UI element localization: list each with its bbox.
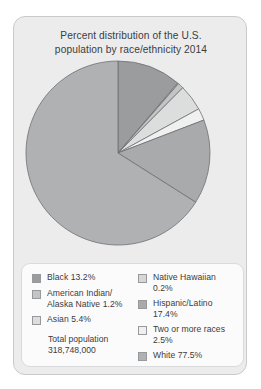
- legend-swatch-icon: [138, 352, 147, 361]
- legend-column-left: Black 13.2%American Indian/Alaska Native…: [32, 272, 140, 355]
- legend-swatch-icon: [138, 300, 147, 309]
- total-population-line: 318,748,000: [48, 345, 140, 356]
- chart-title: Percent distribution of the U.S. populat…: [14, 29, 248, 56]
- chart-title-line-1: Percent distribution of the U.S.: [14, 29, 248, 43]
- pie-chart-area: [14, 58, 248, 258]
- legend-swatch-icon: [32, 316, 41, 325]
- legend-column-right: Native Hawaiian0.2%Hispanic/Latino17.4%T…: [138, 272, 242, 366]
- legend-item[interactable]: White 77.5%: [138, 350, 242, 361]
- total-population-note: Total population318,748,000: [48, 334, 140, 355]
- chart-legend: Black 13.2%American Indian/Alaska Native…: [21, 263, 244, 367]
- legend-item[interactable]: American Indian/Alaska Native 1.2%: [32, 288, 140, 309]
- legend-item-label: Two or more races2.5%: [153, 324, 225, 345]
- legend-item-label: Hispanic/Latino17.4%: [153, 298, 213, 319]
- total-population-line: Total population: [48, 334, 140, 345]
- legend-swatch-icon: [138, 326, 147, 335]
- legend-item-label: Black 13.2%: [47, 272, 95, 283]
- legend-item[interactable]: Asian 5.4%: [32, 314, 140, 325]
- chart-card: Percent distribution of the U.S. populat…: [13, 16, 247, 375]
- legend-item[interactable]: Hispanic/Latino17.4%: [138, 298, 242, 319]
- legend-item-label: Asian 5.4%: [47, 314, 91, 325]
- legend-item[interactable]: Native Hawaiian0.2%: [138, 272, 242, 293]
- legend-item-label: White 77.5%: [153, 350, 202, 361]
- legend-swatch-icon: [138, 274, 147, 283]
- legend-item[interactable]: Black 13.2%: [32, 272, 140, 283]
- legend-item-label: Native Hawaiian0.2%: [153, 272, 216, 293]
- pie-slice-group: [26, 61, 210, 245]
- legend-swatch-icon: [32, 274, 41, 283]
- pie-chart: [23, 58, 213, 248]
- legend-item[interactable]: Two or more races2.5%: [138, 324, 242, 345]
- legend-swatch-icon: [32, 290, 41, 299]
- legend-item-label: American Indian/Alaska Native 1.2%: [47, 288, 122, 309]
- chart-title-line-2: population by race/ethnicity 2014: [14, 43, 248, 57]
